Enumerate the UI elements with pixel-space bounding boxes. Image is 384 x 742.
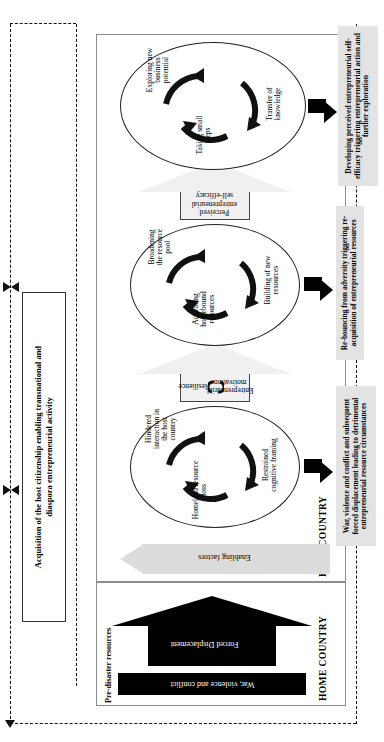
transition-1-arrow: Resilience Entrepreneurial motivation xyxy=(160,342,270,402)
stage-2-outcome-box: Re-bouncing from adversity triggering re… xyxy=(336,206,364,360)
citizenship-acquisition-line2: diaspora entrepreneurial activity xyxy=(44,346,55,568)
enabling-factors-arrow: Enabling factors xyxy=(120,530,330,574)
feedback-loop-inner-segment xyxy=(76,24,77,686)
transition-1-arrow-head xyxy=(139,344,291,374)
conceptual-framework-diagram: Acquisition of the host citizenship enab… xyxy=(0,0,384,742)
feedback-arrowhead-end xyxy=(5,720,15,728)
stage-3-outcome-box: Developing perceived entrepreneurial sel… xyxy=(338,26,378,186)
feedback-arrowhead-a-up xyxy=(11,485,19,495)
forced-displacement-label: Forced Displacement xyxy=(165,640,245,649)
war-violence-conflict-label: War, violence and conflict xyxy=(170,679,254,688)
stage-1-outcome-arrow-head xyxy=(320,461,333,483)
forced-displacement-arrow-head xyxy=(112,596,312,626)
enabling-factors-label: Enabling factors xyxy=(180,553,270,562)
stage-3-outcome-arrow-head xyxy=(324,101,337,123)
war-violence-conflict-bar: War, violence and conflict xyxy=(118,673,306,695)
stage-1-node-3: Restrained cognitive framing xyxy=(262,438,278,492)
stage-3-node-2: Exploring new business potential xyxy=(146,46,170,94)
forced-displacement-arrow: Forced Displacement xyxy=(112,596,312,666)
citizenship-acquisition-line1: Acquisition of the host citizenship enab… xyxy=(33,346,44,568)
feedback-arrowhead-a-down xyxy=(3,485,11,495)
stage-2-node-2: Broadening the resource pool xyxy=(148,224,172,270)
stage-2-node-1: Activating homebound resources xyxy=(192,280,216,338)
feedback-arrowhead-b-up xyxy=(11,282,19,292)
stage-2-outcome-arrow xyxy=(304,272,334,296)
feedback-loop-right-segment xyxy=(10,23,76,24)
enabling-factors-arrow-head xyxy=(120,544,144,574)
stage-1-node-2: Hindered interaction in the host country xyxy=(145,406,177,452)
stage-3-outcome-arrow xyxy=(308,94,338,118)
stage-1-outcome-box: War, violence and conflict and subsequen… xyxy=(336,386,376,546)
home-country-label: HOME COUNTRY xyxy=(318,616,328,701)
stage-1-node-1: Homeland resource loss xyxy=(192,460,208,520)
transition-1-cycle-icon xyxy=(208,378,224,396)
transition-2-label-1: Perceived entrepreneurial self-efficacy xyxy=(186,192,242,217)
stage-2-node-3: Building of new resources xyxy=(264,252,280,308)
stage-3-cycle-arrows xyxy=(152,64,278,146)
feedback-arrowhead-b-down xyxy=(3,282,11,292)
stage-3-node-3: Transfer of knowledge xyxy=(266,78,282,130)
feedback-loop-top-segment xyxy=(10,24,11,724)
figure-page: Acquisition of the host citizenship enab… xyxy=(0,0,384,742)
stage-1-outcome-arrow xyxy=(304,454,334,478)
stage-2-outcome-arrow-head xyxy=(320,279,333,301)
feedback-loop-left-segment xyxy=(10,723,356,724)
citizenship-acquisition-box: Acquisition of the host citizenship enab… xyxy=(22,292,66,622)
stage-3-node-1: Taking small steps xyxy=(196,110,212,160)
